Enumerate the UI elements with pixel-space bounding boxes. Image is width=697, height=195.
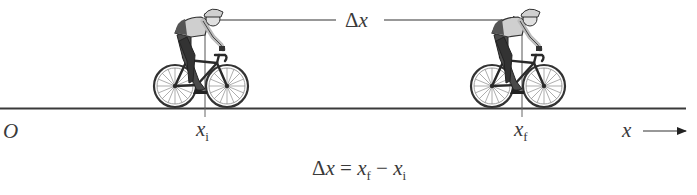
displacement-label: Δx <box>345 10 368 31</box>
origin-label: O <box>3 121 18 142</box>
final-position-label: xf <box>514 119 528 140</box>
axis-label: x <box>622 120 631 141</box>
cyclist-initial-icon <box>154 9 248 107</box>
displacement-equation: Δx = xf − xi <box>312 158 406 179</box>
cyclist-final-icon <box>471 9 565 107</box>
initial-position-label: xi <box>196 119 209 140</box>
